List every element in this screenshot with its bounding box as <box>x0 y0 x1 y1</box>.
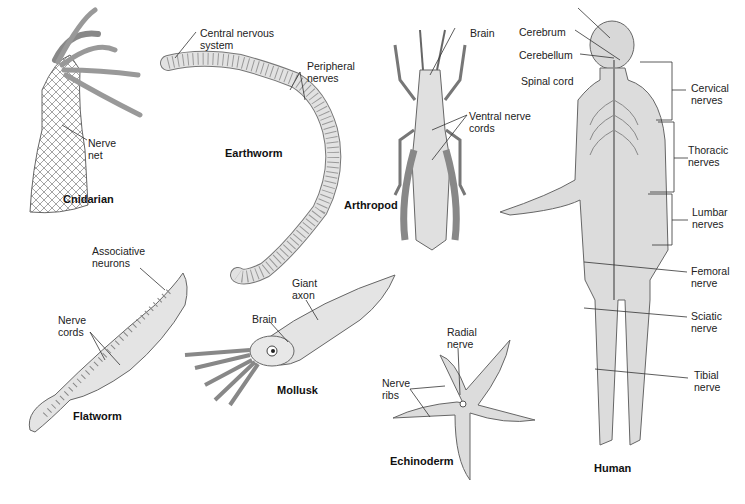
cnidarian-label-nerve-net: Nerve net <box>88 137 116 161</box>
human-figure <box>500 8 688 445</box>
human-label-cerebellum: Cerebellum <box>519 49 573 61</box>
arthropod-label-ventral-cords: Ventral nerve cords <box>469 110 531 134</box>
human-label-tibial: Tibial nerve <box>694 369 720 393</box>
earthworm-label-cns: Central nervous system <box>200 27 274 51</box>
cnidarian-name: Cnidarian <box>63 193 114 205</box>
flatworm-figure <box>29 268 187 432</box>
earthworm-label-peripheral: Peripheral nerves <box>307 60 355 84</box>
flatworm-name: Flatworm <box>73 410 122 422</box>
human-label-sciatic: Sciatic nerve <box>691 310 722 334</box>
echinoderm-label-ribs: Nerve ribs <box>382 377 410 401</box>
nervous-systems-diagram: Nerve net Cnidarian Central nervous syst… <box>0 0 745 504</box>
arthropod-name: Arthropod <box>344 199 398 211</box>
human-label-thoracic: Thoracic nerves <box>688 144 728 168</box>
human-label-cervical: Cervical nerves <box>691 82 729 106</box>
human-label-spinal-cord: Spinal cord <box>521 75 574 87</box>
mollusk-name: Mollusk <box>277 384 318 396</box>
echinoderm-label-radial: Radial nerve <box>447 326 477 350</box>
earthworm-name: Earthworm <box>225 147 282 159</box>
arthropod-figure <box>395 28 467 250</box>
arthropod-label-brain: Brain <box>470 27 495 39</box>
mollusk-label-brain: Brain <box>252 313 277 325</box>
flatworm-label-associative: Associative neurons <box>92 245 145 269</box>
flatworm-label-cords: Nerve cords <box>58 314 86 338</box>
echinoderm-name: Echinoderm <box>390 455 454 467</box>
human-name: Human <box>594 462 631 474</box>
human-label-lumbar: Lumbar nerves <box>692 206 728 230</box>
mollusk-label-giant-axon: Giant axon <box>292 277 317 301</box>
human-label-femoral: Femoral nerve <box>691 265 730 289</box>
cnidarian-figure <box>30 10 140 213</box>
human-label-cerebrum: Cerebrum <box>519 26 566 38</box>
